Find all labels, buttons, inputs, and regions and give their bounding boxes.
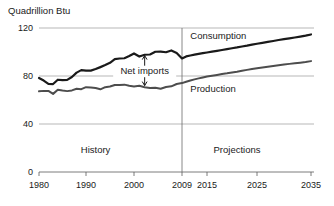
period-label-history: History [81, 144, 111, 155]
x-tick-label-2025: 2025 [247, 180, 267, 190]
annotations-group: Net imports [113, 56, 176, 86]
energy-outlook-chart-figure: 04080120 1980199020002009201520252035 Ne… [0, 0, 334, 206]
x-tick-label-2009: 2009 [172, 180, 192, 190]
x-tick-label-1980: 1980 [29, 180, 49, 190]
chart-canvas: 04080120 1980199020002009201520252035 Ne… [0, 0, 334, 206]
y-tick-label-40: 40 [23, 119, 33, 129]
period-label-projections: Projections [214, 144, 261, 155]
series-label-production: Production [190, 83, 235, 94]
series-group [39, 34, 311, 93]
net-imports-label: Net imports [120, 65, 169, 76]
x-tick-label-2035: 2035 [301, 180, 321, 190]
series-label-consumption: Consumption [190, 30, 246, 41]
y-tick-label-120: 120 [18, 23, 33, 33]
x-tick-label-2015: 2015 [197, 180, 217, 190]
y-tick-label-80: 80 [23, 71, 33, 81]
tickmarks-group: 1980199020002009201520252035 [29, 172, 321, 190]
gridlines-group: 04080120 [18, 23, 314, 177]
y-axis-title: Quadrillion Btu [8, 5, 70, 16]
y-tick-label-0: 0 [28, 167, 33, 177]
x-tick-label-1990: 1990 [76, 180, 96, 190]
x-tick-label-2000: 2000 [124, 180, 144, 190]
